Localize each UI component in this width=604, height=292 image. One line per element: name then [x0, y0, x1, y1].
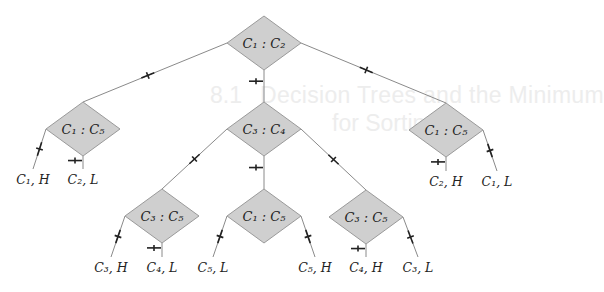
- edge-root-right: [301, 43, 446, 103]
- leaf-label: C₁, H: [16, 172, 51, 187]
- edge-root-left: [83, 43, 227, 102]
- node-label: C₁ : C₂: [243, 36, 286, 51]
- decision-node-mid-mid: C₁ : C₅: [227, 189, 301, 243]
- edge-root-left-marker: [141, 72, 154, 78]
- leaf-label: C₂, H: [429, 174, 464, 189]
- leaf-label: C₃, L: [403, 260, 434, 275]
- edge-leaf-4-marker: [147, 245, 161, 251]
- edge-mid-mid-marker: [249, 165, 263, 171]
- tree-nodes: C₁ : C₂C₁ : C₅C₃ : C₄C₁ : C₅C₃ : C₅C₁ : …: [46, 16, 483, 244]
- node-label: C₁ : C₅: [62, 122, 106, 137]
- node-label: C₃ : C₅: [141, 209, 185, 224]
- edge-leaf-8-marker: [407, 230, 414, 243]
- edge-leaf-5-marker: [217, 230, 224, 243]
- leaf-label: C₃, H: [94, 260, 129, 275]
- decision-node-mid-right: C₃ : C₅: [329, 190, 403, 244]
- decision-node-mid-left: C₃ : C₅: [125, 189, 199, 243]
- edge-leaf-2-marker: [68, 158, 82, 164]
- edge-mid-right-marker: [328, 155, 338, 165]
- edge-leaf-1-marker: [36, 142, 43, 155]
- leaf-label: C₄, L: [147, 260, 178, 275]
- decision-node-right: C₁ : C₅: [409, 103, 483, 157]
- decision-node-mid: C₃ : C₄: [227, 102, 301, 156]
- leaf-label: C₄, H: [349, 260, 384, 275]
- leaf-label: C₅, H: [298, 260, 333, 275]
- edge-mid-left-marker: [189, 154, 199, 163]
- leaf-label: C₂, L: [68, 172, 99, 187]
- edge-leaf-3-marker: [115, 230, 122, 243]
- leaf-label: C₁, L: [482, 174, 513, 189]
- leaf-label: C₅, L: [198, 260, 229, 275]
- edge-leaf-9-marker: [431, 159, 445, 165]
- edge-leaf-7-marker: [351, 246, 365, 252]
- edge-root-mid-marker: [249, 78, 263, 84]
- edge-leaf-10-marker: [487, 144, 494, 157]
- node-label: C₃ : C₄: [243, 122, 286, 137]
- node-label: C₃ : C₅: [345, 210, 389, 225]
- node-label: C₁ : C₅: [425, 123, 469, 138]
- decision-node-root: C₁ : C₂: [227, 16, 301, 70]
- node-label: C₁ : C₅: [243, 209, 287, 224]
- decision-node-left: C₁ : C₅: [46, 102, 120, 156]
- edge-root-right-marker: [360, 67, 373, 73]
- edge-leaf-6-marker: [305, 230, 312, 243]
